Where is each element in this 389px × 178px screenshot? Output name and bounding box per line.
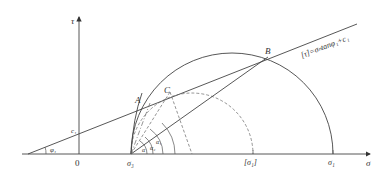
alpha2-label: α₂ [150, 145, 155, 151]
envelope-equation-label: [τ]=σₙtanφ₁+c₁ [299, 33, 350, 60]
failure-mohr-circle [131, 53, 333, 154]
allowable-sigma1-label: [σ₁] [244, 158, 257, 167]
point-B-label: B [265, 46, 271, 56]
mohr-circle-diagram: τ σ 0 c₁ φ₁ A B C σ₃ [σ₁] σ₁ α₁ α₂ α [τ]… [0, 0, 389, 178]
sigma3-label: σ₃ [127, 159, 134, 168]
point-A-label: A [134, 95, 141, 105]
c1-label: c₁ [71, 127, 77, 135]
sigma-axis-label: σ [366, 158, 371, 168]
point-C-label: C [164, 85, 171, 95]
alpha3-label: α [142, 147, 146, 153]
origin-label: 0 [75, 158, 80, 168]
sigma1-label: σ₁ [328, 158, 335, 167]
phi1-label: φ₁ [50, 146, 56, 154]
alpha1-label: α₁ [156, 139, 161, 145]
line-C-to-axis [170, 92, 192, 154]
tau-axis-label: τ [71, 16, 75, 26]
strength-envelope-line [28, 24, 357, 154]
angle-arc-phi1 [45, 147, 46, 154]
